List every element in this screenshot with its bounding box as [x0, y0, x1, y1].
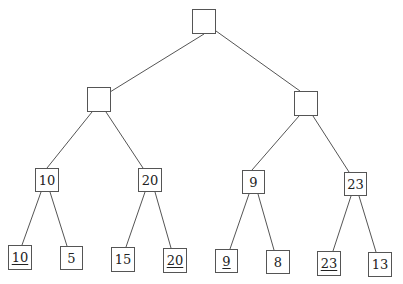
- tree-node-rlr: 8: [266, 250, 290, 274]
- tree-edge: [230, 194, 249, 249]
- tree-node-rrr: 13: [368, 252, 392, 277]
- node-label: 23: [347, 177, 364, 192]
- tree-node-rrl: 23: [317, 251, 341, 276]
- tree-node-rll: 9: [215, 249, 238, 273]
- tree-node-lr: 20: [138, 168, 162, 192]
- node-label: 5: [67, 251, 75, 266]
- tree-edge: [47, 112, 92, 168]
- tree-edge: [126, 192, 145, 247]
- node-label: 9: [222, 254, 230, 269]
- tree-edge: [22, 192, 41, 245]
- tree-node-llr: 5: [60, 246, 83, 270]
- tree-edge: [359, 196, 376, 252]
- node-label: 15: [115, 252, 132, 267]
- node-label: 23: [321, 256, 338, 271]
- tree-node-l: [87, 87, 111, 112]
- tree-edge: [155, 192, 171, 248]
- tree-edge: [216, 31, 300, 91]
- tree-edges: [0, 0, 403, 284]
- tree-edge: [50, 192, 67, 246]
- node-label: 13: [372, 257, 389, 272]
- tree-node-ll: 10: [35, 168, 59, 192]
- tree-node-lrl: 15: [111, 247, 135, 272]
- tree-node-lll: 10: [8, 245, 32, 270]
- tree-edge: [110, 34, 204, 92]
- tree-node-rl: 9: [242, 170, 265, 194]
- node-label: 20: [142, 173, 159, 188]
- node-label: 8: [274, 255, 282, 270]
- tree-edge: [106, 112, 143, 168]
- node-label: 20: [167, 253, 184, 268]
- node-label: 10: [12, 250, 29, 265]
- tree-edge: [258, 194, 274, 250]
- tree-edge: [313, 116, 349, 172]
- tree-node-rr: 23: [344, 172, 367, 196]
- tree-edge: [333, 196, 351, 251]
- tree-node-root: [192, 9, 216, 34]
- node-label: 10: [39, 173, 56, 188]
- tree-edge: [252, 116, 299, 170]
- tree-node-lrr: 20: [163, 248, 187, 273]
- node-label: 9: [249, 175, 257, 190]
- tree-node-r: [294, 91, 318, 116]
